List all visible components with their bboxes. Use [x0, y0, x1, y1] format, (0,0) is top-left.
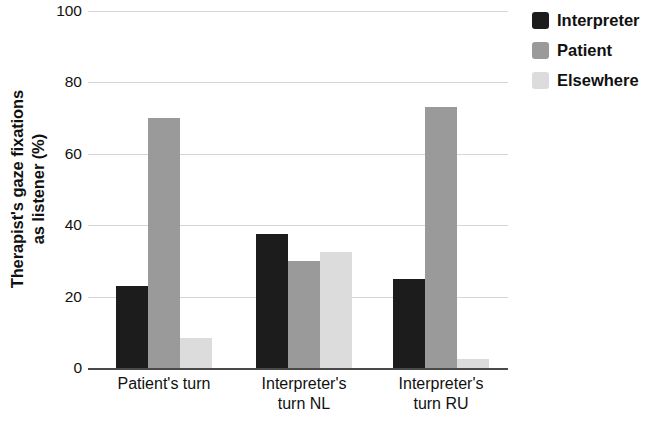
x-axis-category-label-line: turn NL [224, 394, 384, 414]
chart-legend: InterpreterPatientElsewhere [532, 8, 663, 98]
legend-item-label: Interpreter [557, 11, 640, 30]
legend-swatch-icon [532, 12, 549, 29]
y-axis-tick-labels: 020406080100 [30, 11, 82, 368]
y-axis-title-line1: Therapist's gaze fixations [8, 90, 26, 288]
x-axis-category-label-line: turn RU [361, 394, 521, 414]
bar [457, 359, 489, 368]
x-axis-category-label: Interpreter'sturn RU [361, 374, 521, 413]
x-axis-category-label-line: Patient's turn [84, 374, 244, 394]
legend-item-label: Patient [557, 41, 612, 60]
y-axis-tick-label: 80 [36, 73, 82, 91]
y-axis-tick-label: 20 [36, 288, 82, 306]
bar-chart-figure: Therapist's gaze fixations as listener (… [0, 0, 663, 421]
bar [393, 279, 425, 368]
y-axis-tick-label: 100 [36, 2, 82, 20]
x-axis-category-label: Interpreter'sturn NL [224, 374, 384, 413]
bar-group [88, 11, 508, 368]
y-axis-tick-label: 0 [36, 359, 82, 377]
legend-item[interactable]: Interpreter [532, 8, 663, 33]
y-axis-tick-label: 60 [36, 145, 82, 163]
y-axis-tick-label: 40 [36, 216, 82, 234]
x-axis-category-label: Patient's turn [84, 374, 244, 394]
legend-swatch-icon [532, 42, 549, 59]
plot-area [88, 11, 508, 368]
x-axis-line [88, 368, 508, 370]
x-axis-category-label-line: Interpreter's [361, 374, 521, 394]
legend-item[interactable]: Patient [532, 38, 663, 63]
legend-swatch-icon [532, 72, 549, 89]
bar [425, 107, 457, 368]
legend-item-label: Elsewhere [557, 71, 639, 90]
x-axis-category-label-line: Interpreter's [224, 374, 384, 394]
legend-item[interactable]: Elsewhere [532, 68, 663, 93]
